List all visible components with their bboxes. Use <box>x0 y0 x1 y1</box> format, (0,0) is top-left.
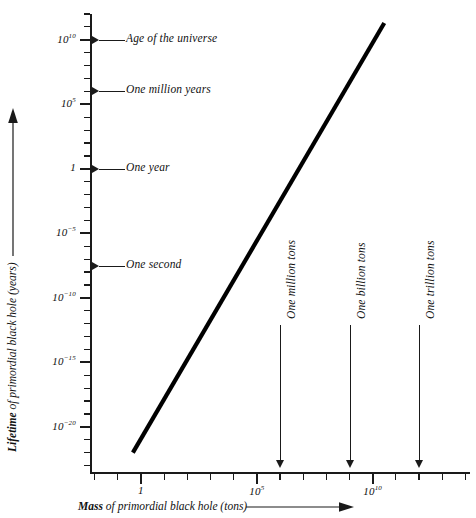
x-tick-label: 1010 <box>353 484 393 497</box>
y-tick-label: 105 <box>61 96 76 109</box>
y-tick-minor <box>84 181 90 182</box>
annotation-arrowhead-icon <box>92 262 99 270</box>
y-tick-minor <box>84 375 90 376</box>
y-tick-minor <box>84 130 90 131</box>
y-axis-title-rest: of primordial black hole (years) <box>6 262 18 412</box>
annotation-leader-line <box>99 169 125 170</box>
annotation-leader-line <box>350 325 351 460</box>
y-tick-minor <box>84 52 90 53</box>
y-tick-label: 10−20 <box>52 419 76 432</box>
y-tick-minor <box>84 78 90 79</box>
y-tick-major <box>80 39 90 41</box>
y-tick-minor <box>84 259 90 260</box>
y-tick-major <box>80 297 90 299</box>
y-tick-minor <box>84 194 90 195</box>
x-annotation-label: One trillion tons <box>424 240 436 319</box>
y-axis-direction-arrow <box>6 106 20 256</box>
annotation-arrowhead-icon <box>92 165 99 173</box>
annotation-arrowhead-icon <box>92 87 99 95</box>
x-tick-minor <box>303 474 304 480</box>
x-tick-label: 1 <box>121 484 161 496</box>
y-tick-major <box>80 103 90 105</box>
x-tick-minor <box>233 474 234 480</box>
y-tick-label: 10−10 <box>52 290 76 303</box>
y-tick-major <box>80 168 90 170</box>
y-tick-minor <box>84 452 90 453</box>
y-tick-minor <box>84 323 90 324</box>
y-tick-minor <box>84 349 90 350</box>
x-axis-direction-arrow <box>246 500 356 514</box>
y-tick-minor <box>84 220 90 221</box>
annotation-leader-line <box>99 40 125 41</box>
y-tick-minor <box>84 91 90 92</box>
y-annotation-label: One year <box>126 161 170 173</box>
x-axis-title-keyword: Mass <box>78 500 103 512</box>
y-tick-major <box>80 361 90 363</box>
x-tick-minor <box>210 474 211 480</box>
x-axis-title-rest: of primordial black hole (tons) <box>103 500 247 512</box>
x-tick-minor <box>418 474 419 480</box>
y-tick-label: 10−15 <box>52 354 76 367</box>
y-tick-label: 1 <box>70 161 76 173</box>
x-tick-minor <box>187 474 188 480</box>
y-tick-minor <box>84 271 90 272</box>
x-tick-major <box>140 474 142 484</box>
x-tick-minor <box>326 474 327 480</box>
x-tick-minor <box>117 474 118 480</box>
y-tick-minor <box>84 13 90 14</box>
x-tick-major <box>372 474 374 484</box>
annotation-leader-line <box>99 266 125 267</box>
y-tick-minor <box>84 207 90 208</box>
y-tick-label: 10−5 <box>56 225 76 238</box>
x-axis-title: Mass of primordial black hole (tons) <box>78 500 247 512</box>
y-tick-minor <box>84 400 90 401</box>
y-tick-major <box>80 426 90 428</box>
x-annotation-label: One billion tons <box>355 242 367 319</box>
annotation-arrowhead-icon <box>415 460 423 468</box>
x-tick-major <box>256 474 258 484</box>
annotation-arrowhead-icon <box>276 460 284 468</box>
y-tick-minor <box>84 310 90 311</box>
y-axis-title: Lifetime of primordial black hole (years… <box>6 262 18 452</box>
y-tick-minor <box>84 465 90 466</box>
y-annotation-label: One second <box>126 258 181 270</box>
annotation-leader-line <box>419 325 420 460</box>
data-series-line <box>0 0 476 518</box>
x-tick-minor <box>164 474 165 480</box>
y-tick-minor <box>84 336 90 337</box>
x-tick-minor <box>94 474 95 480</box>
x-tick-minor <box>349 474 350 480</box>
y-axis-line <box>90 14 92 472</box>
x-tick-minor <box>465 474 466 480</box>
y-tick-minor <box>84 413 90 414</box>
chart-figure: 1010105110−510−1010−1510−20 11051010 Age… <box>0 0 476 518</box>
x-tick-label: 105 <box>237 484 277 497</box>
y-tick-minor <box>84 388 90 389</box>
y-tick-label: 1010 <box>57 32 76 45</box>
annotation-leader-line <box>99 91 125 92</box>
y-tick-minor <box>84 246 90 247</box>
y-tick-minor <box>84 26 90 27</box>
y-tick-minor <box>84 117 90 118</box>
y-axis-title-keyword: Lifetime <box>6 412 18 452</box>
y-tick-minor <box>84 65 90 66</box>
x-tick-minor <box>442 474 443 480</box>
x-annotation-label: One million tons <box>285 240 297 319</box>
y-tick-minor <box>84 142 90 143</box>
x-tick-minor <box>279 474 280 480</box>
y-tick-minor <box>84 284 90 285</box>
annotation-arrowhead-icon <box>346 460 354 468</box>
x-tick-minor <box>395 474 396 480</box>
annotation-arrowhead-icon <box>92 36 99 44</box>
y-tick-major <box>80 232 90 234</box>
y-annotation-label: Age of the universe <box>126 32 217 44</box>
y-annotation-label: One million years <box>126 83 211 95</box>
y-tick-minor <box>84 439 90 440</box>
y-tick-minor <box>84 155 90 156</box>
annotation-leader-line <box>280 325 281 460</box>
